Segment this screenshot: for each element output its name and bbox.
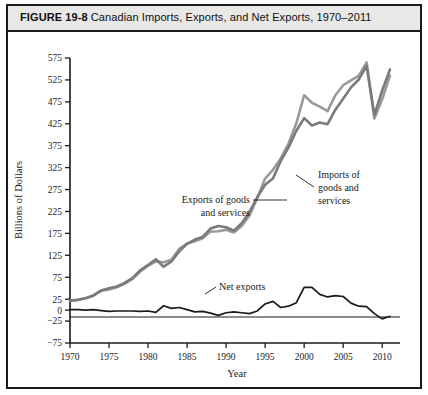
y-tick-label: 125 <box>48 251 63 261</box>
imports-annotation-line1: Imports of <box>318 169 361 180</box>
y-tick-label: 575 <box>48 53 63 63</box>
y-tick-label: 75 <box>53 273 63 283</box>
chart-plot-area: −75−250257512517522527532537542547552557… <box>8 32 420 389</box>
exports-annotation-line1: Exports of goods <box>182 194 250 205</box>
y-tick-label: 225 <box>48 207 63 217</box>
x-axis-title: Year <box>227 368 247 379</box>
imports-annotation-line3: services <box>318 195 350 206</box>
series-line-net-exports <box>70 287 390 319</box>
x-axis-ticklabels: 197019751980198519901995200020052010 <box>61 352 392 362</box>
net-exports-leader-line <box>205 287 216 294</box>
y-axis-ticklabels: −75−250257512517522527532537542547552557… <box>47 53 62 348</box>
x-tick-label: 1985 <box>178 352 197 362</box>
figure-header-bar: FIGURE 19-8 Canadian Imports, Exports, a… <box>8 6 420 32</box>
y-tick-label: 375 <box>48 141 63 151</box>
figure-number: FIGURE 19-8 <box>20 11 88 23</box>
exports-annotation-line2: and services <box>201 207 250 218</box>
x-tick-label: 1990 <box>217 352 236 362</box>
figure-container: FIGURE 19-8 Canadian Imports, Exports, a… <box>6 4 422 389</box>
y-tick-label: 475 <box>48 97 63 107</box>
y-tick-label: 175 <box>48 229 63 239</box>
y-tick-label: 275 <box>48 185 63 195</box>
x-tick-label: 1970 <box>61 352 80 362</box>
y-tick-label: 325 <box>48 163 63 173</box>
x-tick-label: 1995 <box>256 352 275 362</box>
figure-header-text: FIGURE 19-8 Canadian Imports, Exports, a… <box>20 11 372 23</box>
x-tick-label: 1980 <box>139 352 158 362</box>
y-tick-label: −25 <box>47 316 62 326</box>
chart-svg: −75−250257512517522527532537542547552557… <box>8 32 420 389</box>
net-exports-annotation: Net exports <box>219 281 265 292</box>
imports-leader-line <box>296 175 314 187</box>
cut-off-caption <box>8 391 420 395</box>
y-tick-label: −75 <box>47 338 62 348</box>
y-tick-label: 425 <box>48 119 63 129</box>
figure-title: Canadian Imports, Exports, and Net Expor… <box>91 11 372 23</box>
y-tick-label: 25 <box>53 295 63 305</box>
x-tick-label: 1975 <box>100 352 119 362</box>
y-tick-label: 0 <box>57 306 62 316</box>
x-tick-label: 2005 <box>334 352 353 362</box>
imports-annotation-line2: goods and <box>318 182 359 193</box>
x-tick-label: 2000 <box>295 352 314 362</box>
y-axis-title: Billions of Dollars <box>13 161 24 239</box>
x-tick-label: 2010 <box>373 352 392 362</box>
y-tick-label: 525 <box>48 75 63 85</box>
